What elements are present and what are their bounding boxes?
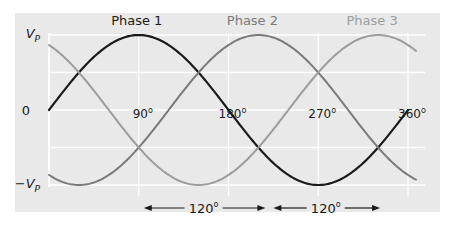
series-label-phase-3: Phase 3 (346, 13, 397, 28)
series-label-phase-2: Phase 2 (227, 13, 278, 28)
phase-difference-label: 120o (189, 200, 219, 216)
series-label-phase-1: Phase 1 (111, 13, 162, 28)
series-labels: Phase 1Phase 2Phase 3 (111, 13, 398, 28)
three-phase-waveform-diagram: VP0−VP 90o180o270o360o Phase 1Phase 2Pha… (0, 0, 453, 226)
phase-difference-label: 120o (311, 200, 341, 216)
y-tick-label: 0 (22, 103, 30, 118)
